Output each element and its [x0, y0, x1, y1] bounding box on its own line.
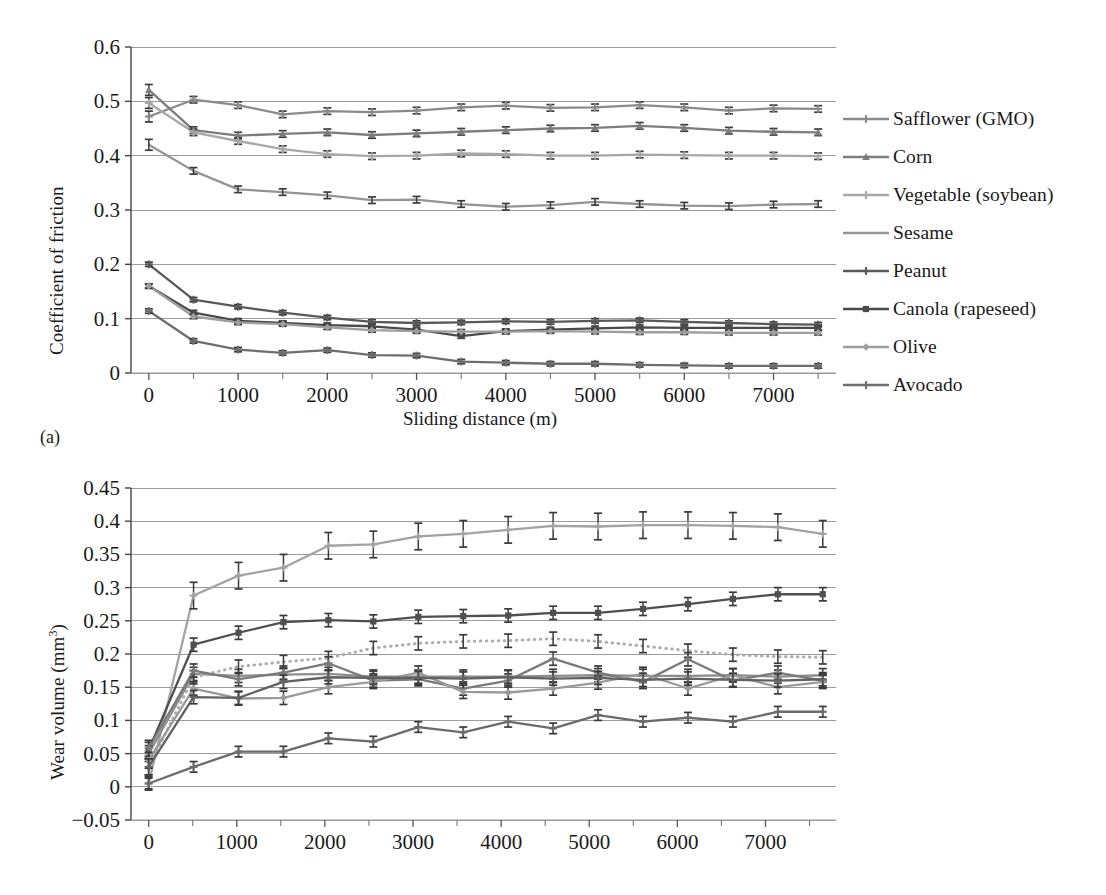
- legend-key-olive-icon: [843, 340, 889, 354]
- legend-label-olive: Olive: [893, 337, 937, 357]
- series-safflower-gmo: [145, 652, 827, 756]
- series-olive: [145, 666, 827, 768]
- legend-item-olive[interactable]: Olive: [843, 328, 1054, 366]
- chart-b-canvas: −0.0500.050.10.150.20.250.30.350.40.4501…: [0, 450, 1106, 895]
- svg-text:7000: 7000: [753, 383, 795, 407]
- legend-label-peanut: Peanut: [893, 261, 947, 281]
- svg-text:5000: 5000: [574, 383, 616, 407]
- svg-text:0: 0: [110, 361, 121, 385]
- svg-text:5000: 5000: [568, 830, 610, 854]
- svg-text:6000: 6000: [656, 830, 698, 854]
- svg-text:0.4: 0.4: [94, 144, 121, 168]
- svg-text:3000: 3000: [396, 383, 438, 407]
- svg-text:0.3: 0.3: [94, 576, 120, 600]
- panel-b: −0.0500.050.10.150.20.250.30.350.40.4501…: [0, 450, 1106, 895]
- svg-text:0.1: 0.1: [94, 708, 120, 732]
- legend-item-corn[interactable]: Corn: [843, 138, 1054, 176]
- legend-label-sesame: Sesame: [893, 223, 953, 243]
- series-corn: [145, 588, 827, 759]
- svg-text:0: 0: [143, 830, 154, 854]
- legend-item-vegetable-soybean[interactable]: Vegetable (soybean): [843, 176, 1054, 214]
- svg-text:0.15: 0.15: [83, 675, 120, 699]
- svg-text:0.2: 0.2: [94, 252, 120, 276]
- svg-text:4000: 4000: [480, 830, 522, 854]
- legend-key-avocado-icon: [843, 378, 889, 392]
- legend-key-canola-rapeseed-icon: [843, 302, 889, 316]
- svg-text:0.2: 0.2: [94, 642, 120, 666]
- svg-text:3000: 3000: [392, 830, 434, 854]
- svg-text:0: 0: [110, 775, 121, 799]
- panel-a-caption: (a): [40, 427, 60, 448]
- series-peanut: [145, 671, 827, 775]
- svg-text:0.1: 0.1: [94, 307, 120, 331]
- svg-text:0.25: 0.25: [83, 609, 120, 633]
- series-sesame: [145, 139, 822, 210]
- svg-text:2000: 2000: [306, 383, 348, 407]
- chart-a-xlabel: Sliding distance (m): [280, 408, 680, 430]
- svg-text:1000: 1000: [216, 830, 258, 854]
- svg-text:1000: 1000: [217, 383, 259, 407]
- series-safflower-gmo: [145, 96, 822, 122]
- legend-key-safflower-gmo-icon: [843, 112, 889, 126]
- legend-key-sesame-icon: [843, 226, 889, 240]
- panel-a: 00.10.20.30.40.50.6010002000300040005000…: [0, 0, 1106, 450]
- series-sesame: [145, 667, 827, 761]
- series-avocado: [145, 307, 822, 370]
- legend-item-safflower-gmo[interactable]: Safflower (GMO): [843, 100, 1054, 138]
- svg-text:−0.05: −0.05: [71, 808, 120, 832]
- legend-label-avocado: Avocado: [893, 375, 963, 395]
- legend-key-peanut-icon: [843, 264, 889, 278]
- chart-b-ylabel: Wear volume (mm3): [46, 624, 69, 780]
- legend-key-vegetable-soybean-icon: [843, 188, 889, 202]
- legend-label-vegetable-soybean: Vegetable (soybean): [893, 185, 1054, 205]
- svg-text:0.05: 0.05: [83, 742, 120, 766]
- svg-text:6000: 6000: [663, 383, 705, 407]
- legend-label-canola-rapeseed: Canola (rapeseed): [893, 299, 1036, 319]
- legend-item-peanut[interactable]: Peanut: [843, 252, 1054, 290]
- svg-text:0: 0: [144, 383, 155, 407]
- legend-item-avocado[interactable]: Avocado: [843, 366, 1054, 404]
- svg-text:0.6: 0.6: [94, 35, 120, 59]
- chart-a-legend: Safflower (GMO)CornVegetable (soybean)Se…: [843, 100, 1054, 404]
- legend-item-canola-rapeseed[interactable]: Canola (rapeseed): [843, 290, 1054, 328]
- series-avocado: [145, 706, 827, 788]
- svg-text:2000: 2000: [304, 830, 346, 854]
- svg-text:0.5: 0.5: [94, 89, 120, 113]
- series-vegetable-soybean: [145, 512, 827, 790]
- svg-text:7000: 7000: [745, 830, 787, 854]
- figure-root: 00.10.20.30.40.50.6010002000300040005000…: [0, 0, 1106, 895]
- svg-text:4000: 4000: [485, 383, 527, 407]
- svg-text:0.4: 0.4: [94, 509, 121, 533]
- chart-a-ylabel: Coefficient of friction: [46, 186, 68, 355]
- series-corn: [145, 84, 822, 138]
- legend-key-corn-icon: [843, 150, 889, 164]
- legend-label-corn: Corn: [893, 147, 932, 167]
- chart-b-ylabel-superscript: 3: [46, 630, 60, 636]
- svg-text:0.35: 0.35: [83, 542, 120, 566]
- chart-b-ylabel-end: ): [47, 624, 68, 630]
- svg-text:0.3: 0.3: [94, 198, 120, 222]
- chart-b-ylabel-main: Wear volume (mm: [47, 637, 68, 780]
- svg-text:0.45: 0.45: [83, 476, 120, 500]
- legend-item-sesame[interactable]: Sesame: [843, 214, 1054, 252]
- legend-label-safflower-gmo: Safflower (GMO): [893, 109, 1034, 129]
